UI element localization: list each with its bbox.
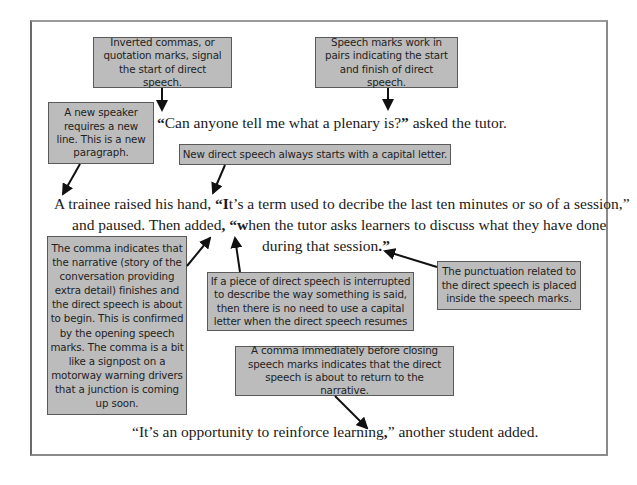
arrow-interrupted-speech	[235, 238, 240, 272]
arrow-comma-before-closing	[335, 396, 367, 428]
arrow-comma-narrative	[187, 238, 210, 266]
arrow-capital-letter	[213, 165, 225, 193]
arrow-punctuation-inside	[385, 251, 437, 267]
arrow-new-speaker	[63, 164, 80, 194]
arrows-layer	[0, 0, 637, 485]
